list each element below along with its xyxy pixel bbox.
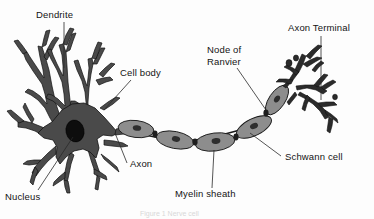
neuron-illustration: Dendrite Cell body Node of Ranvier Axon … [0, 0, 374, 219]
label-dendrite: Dendrite [36, 9, 73, 20]
neuron-diagram: Dendrite Cell body Node of Ranvier Axon … [0, 0, 374, 219]
terminal-bouton-1 [286, 60, 292, 67]
label-cell-body: Cell body [120, 67, 161, 78]
label-nucleus: Nucleus [5, 191, 40, 202]
node-of-ranvier-4 [263, 110, 268, 117]
label-node-of-ranvier-line2: Ranvier [207, 56, 241, 67]
node-of-ranvier-3 [233, 134, 238, 141]
label-myelin-sheath: Myelin sheath [175, 188, 236, 199]
figure-caption: Figure 1 Nerve cell [140, 210, 199, 218]
terminal-bouton-3 [333, 94, 338, 100]
terminal-bouton-2 [293, 55, 298, 61]
label-node-of-ranvier-line1: Node of [207, 44, 242, 55]
label-schwann-cell: Schwann cell [285, 151, 343, 162]
label-axon: Axon [130, 158, 152, 169]
label-axon-terminal: Axon Terminal [288, 22, 350, 33]
node-of-ranvier-1 [152, 131, 157, 138]
node-of-ranvier-2 [192, 139, 197, 146]
